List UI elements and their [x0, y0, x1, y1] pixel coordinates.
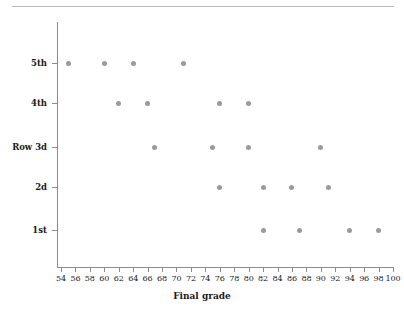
- x-axis-tick: [176, 268, 177, 272]
- y-axis-tick-label: Row 3d: [12, 142, 47, 152]
- data-point: [66, 61, 71, 66]
- x-axis-tick: [249, 268, 250, 272]
- data-point: [210, 145, 215, 150]
- x-axis-tick: [75, 268, 76, 272]
- x-axis-tick: [321, 268, 322, 272]
- x-axis-tick-label: 100: [381, 274, 404, 283]
- x-axis-tick: [205, 268, 206, 272]
- x-axis-tick: [61, 268, 62, 272]
- chart-page: 5456586062646668707274767880828486889092…: [0, 0, 404, 316]
- data-point: [217, 185, 222, 190]
- x-axis-tick: [90, 268, 91, 272]
- x-axis-tick: [234, 268, 235, 272]
- y-axis-tick-label: 5th: [31, 58, 47, 68]
- y-axis-tick: [52, 147, 57, 148]
- x-axis-title: Final grade: [0, 291, 404, 301]
- data-point: [246, 145, 251, 150]
- x-axis-tick: [350, 268, 351, 272]
- data-point: [261, 228, 266, 233]
- x-axis-tick: [148, 268, 149, 272]
- data-point: [145, 101, 150, 106]
- data-point: [116, 101, 121, 106]
- data-point: [297, 228, 302, 233]
- data-point: [347, 228, 352, 233]
- x-axis-tick: [364, 268, 365, 272]
- data-point: [289, 185, 294, 190]
- x-axis-tick: [335, 268, 336, 272]
- y-axis-tick: [52, 230, 57, 231]
- data-point: [326, 185, 331, 190]
- y-axis-tick: [52, 187, 57, 188]
- data-point: [181, 61, 186, 66]
- x-axis-tick: [292, 268, 293, 272]
- data-point: [102, 61, 107, 66]
- x-axis-tick: [191, 268, 192, 272]
- y-axis-tick: [52, 103, 57, 104]
- data-point: [217, 101, 222, 106]
- x-axis-tick: [306, 268, 307, 272]
- x-axis-tick: [162, 268, 163, 272]
- x-axis-tick: [104, 268, 105, 272]
- x-axis-line: [57, 267, 394, 268]
- data-point: [318, 145, 323, 150]
- y-axis-tick-label: 1st: [32, 225, 47, 235]
- x-axis-tick: [393, 268, 394, 272]
- y-axis-tick-label: 2d: [35, 182, 47, 192]
- x-axis-tick: [119, 268, 120, 272]
- x-axis-tick: [379, 268, 380, 272]
- data-point: [376, 228, 381, 233]
- y-axis-tick-label: 4th: [31, 98, 47, 108]
- y-axis-tick: [52, 63, 57, 64]
- x-axis-tick: [220, 268, 221, 272]
- x-axis-tick: [263, 268, 264, 272]
- data-point: [261, 185, 266, 190]
- data-point: [131, 61, 136, 66]
- data-point: [152, 145, 157, 150]
- y-axis-line: [57, 22, 58, 267]
- x-axis-tick: [278, 268, 279, 272]
- data-point: [246, 101, 251, 106]
- scatter-plot: 5456586062646668707274767880828486889092…: [0, 0, 404, 316]
- x-axis-tick: [133, 268, 134, 272]
